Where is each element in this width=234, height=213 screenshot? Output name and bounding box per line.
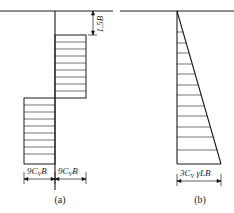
upper-hatch-a — [55, 42, 86, 91]
left-width-label-a: 9CVB — [27, 166, 47, 177]
diagram-a — [0, 11, 113, 190]
pressure-diagrams: 1.5B 9CVB 9CVB (a) 3CV — [0, 0, 234, 213]
caption-b: (b) — [194, 194, 206, 206]
diagram-b — [120, 11, 234, 186]
upper-block-a — [55, 35, 86, 98]
lower-hatch-a — [24, 105, 55, 154]
pressure-slope-b — [177, 11, 221, 164]
hatch-b — [177, 32, 217, 150]
depth-label-a: 1.5B — [95, 15, 105, 32]
base-label-b: 3CV γLB — [179, 168, 211, 179]
right-width-label-a: 9CVB — [58, 166, 78, 177]
caption-a: (a) — [54, 194, 65, 206]
